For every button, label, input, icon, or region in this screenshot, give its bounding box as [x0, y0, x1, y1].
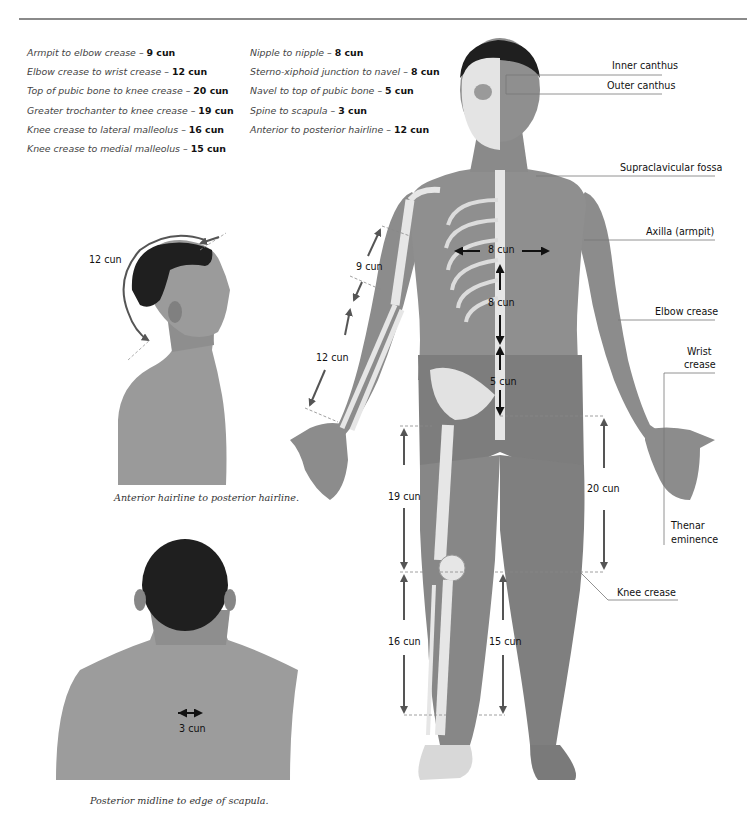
dim-sternum-to-navel: 8 cun: [488, 297, 515, 308]
label-supraclavicular-fossa: Supraclavicular fossa: [620, 162, 722, 173]
back-view-figure: [56, 539, 298, 780]
label-outer-canthus: Outer canthus: [607, 80, 675, 91]
anatomy-illustration: [0, 0, 756, 820]
dim-knee-to-medial-malleolus: 15 cun: [489, 636, 522, 647]
dim-spine-to-scapula: 3 cun: [179, 723, 206, 734]
caption-side-view: Anterior hairline to posterior hairline.: [114, 492, 299, 503]
dim-nipple-to-nipple: 8 cun: [488, 244, 515, 255]
label-thenar-line2: eminence: [671, 534, 718, 545]
caption-back-view: Posterior midline to edge of scapula.: [90, 795, 269, 806]
dim-hairline: 12 cun: [89, 254, 122, 265]
dim-arm-upper: 9 cun: [356, 261, 383, 272]
side-view-figure: [118, 233, 230, 485]
dim-trochanter-to-knee: 19 cun: [388, 491, 421, 502]
dim-navel-to-pubis: 5 cun: [490, 376, 517, 387]
dim-knee-to-lateral-malleolus: 16 cun: [388, 636, 421, 647]
label-thenar-line1: Thenar: [671, 520, 705, 531]
label-knee-crease: Knee crease: [617, 587, 676, 598]
dim-arm-lower: 12 cun: [316, 352, 349, 363]
label-elbow-crease: Elbow crease: [655, 306, 718, 317]
dim-pubis-to-knee: 20 cun: [587, 483, 620, 494]
label-wrist-crease-line2: crease: [684, 359, 716, 370]
label-axilla: Axilla (armpit): [646, 226, 714, 237]
label-wrist-crease-line1: Wrist: [687, 346, 711, 357]
label-inner-canthus: Inner canthus: [612, 60, 678, 71]
